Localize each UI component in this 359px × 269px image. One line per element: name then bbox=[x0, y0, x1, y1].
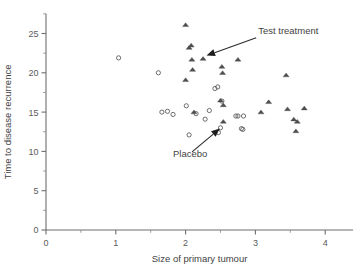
data-point-triangle bbox=[235, 57, 241, 61]
y-tick-label: 25 bbox=[28, 29, 38, 39]
data-point-circle bbox=[160, 110, 164, 114]
x-axis-title: Size of primary tumour bbox=[152, 253, 248, 264]
annotation-label: Placebo bbox=[173, 148, 207, 159]
data-point-triangle bbox=[301, 106, 307, 110]
plot-canvas: 012340510152025Size of primary tumourTim… bbox=[0, 0, 359, 269]
data-point-triangle bbox=[220, 119, 226, 123]
data-point-triangle bbox=[266, 100, 272, 104]
axes-group bbox=[46, 14, 353, 230]
series-placebo bbox=[116, 56, 245, 137]
data-point-circle bbox=[156, 71, 160, 75]
y-tick-label: 10 bbox=[28, 147, 38, 157]
data-point-triangle bbox=[283, 73, 289, 77]
annotation-placebo: Placebo bbox=[173, 129, 220, 159]
data-point-circle bbox=[165, 109, 169, 113]
data-point-triangle bbox=[258, 110, 264, 114]
data-point-triangle bbox=[291, 117, 297, 121]
scatter-plot-figure: 012340510152025Size of primary tumourTim… bbox=[0, 0, 359, 269]
y-tick-group: 0510152025 bbox=[28, 14, 46, 236]
annotation-leader-line bbox=[215, 38, 257, 53]
data-point-triangle bbox=[285, 107, 291, 111]
y-tick-label: 15 bbox=[28, 108, 38, 118]
data-point-triangle bbox=[189, 57, 195, 61]
y-axis-title: Time to disease recurrence bbox=[2, 65, 13, 180]
x-tick-label: 2 bbox=[183, 238, 188, 248]
data-point-triangle bbox=[219, 64, 225, 68]
data-point-triangle bbox=[183, 23, 189, 27]
x-tick-label: 0 bbox=[43, 238, 48, 248]
data-point-circle bbox=[187, 133, 191, 137]
x-tick-label: 3 bbox=[253, 238, 258, 248]
annotation-label: Test treatment bbox=[258, 25, 319, 36]
series-test-treatment bbox=[183, 23, 308, 133]
y-tick-label: 0 bbox=[33, 225, 38, 235]
data-point-circle bbox=[184, 104, 188, 108]
annotation-test-treatment: Test treatment bbox=[207, 25, 319, 56]
x-tick-group: 01234 bbox=[43, 230, 327, 248]
data-point-circle bbox=[203, 117, 207, 121]
data-point-circle bbox=[116, 56, 120, 60]
data-point-circle bbox=[241, 127, 245, 131]
x-tick-label: 4 bbox=[323, 238, 328, 248]
data-point-triangle bbox=[200, 57, 206, 61]
data-point-triangle bbox=[293, 129, 299, 133]
x-tick-label: 1 bbox=[113, 238, 118, 248]
data-point-circle bbox=[241, 114, 245, 118]
data-point-circle bbox=[207, 108, 211, 112]
data-point-circle bbox=[171, 112, 175, 116]
data-point-triangle bbox=[220, 71, 226, 75]
y-tick-label: 5 bbox=[33, 186, 38, 196]
annotation-arrow-head bbox=[207, 49, 216, 56]
data-point-triangle bbox=[183, 78, 189, 82]
y-tick-label: 20 bbox=[28, 68, 38, 78]
data-point-triangle bbox=[188, 43, 194, 47]
data-point-triangle bbox=[190, 68, 196, 72]
